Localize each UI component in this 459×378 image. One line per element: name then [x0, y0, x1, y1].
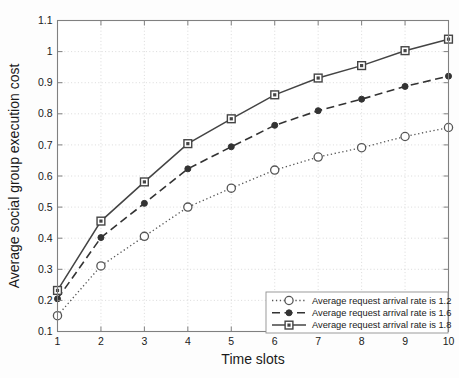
- marker-dot: [315, 108, 321, 114]
- marker-dot: [141, 200, 147, 206]
- y-axis-title: Average social group execution cost: [6, 64, 22, 289]
- marker-square-center: [360, 64, 363, 67]
- marker-square-center: [186, 142, 189, 145]
- legend: Average request arrival rate is 1.2Avera…: [266, 292, 451, 333]
- marker-dot: [98, 235, 104, 241]
- legend-marker-circle: [285, 296, 293, 304]
- marker-circle: [184, 203, 192, 211]
- marker-dot: [359, 96, 365, 102]
- marker-dot: [272, 122, 278, 128]
- x-axis-title: Time slots: [221, 351, 284, 367]
- marker-dot: [185, 166, 191, 172]
- xtick-label: 3: [141, 335, 147, 347]
- marker-square-center: [403, 49, 406, 52]
- ytick-label: 0.8: [38, 107, 53, 119]
- ytick-label: 0.5: [38, 201, 53, 213]
- chart-svg: 0.10.20.30.40.50.60.70.80.911.1123456789…: [0, 0, 459, 378]
- marker-dot: [228, 144, 234, 150]
- legend-marker-square-center: [287, 324, 290, 327]
- marker-square-center: [230, 117, 233, 120]
- ytick-label: 0.9: [38, 76, 53, 88]
- xtick-label: 8: [359, 335, 365, 347]
- marker-circle: [314, 153, 322, 161]
- ytick-label: 0.1: [38, 325, 53, 337]
- marker-square-center: [99, 219, 102, 222]
- marker-circle: [140, 232, 148, 240]
- xtick-label: 2: [98, 335, 104, 347]
- xtick-label: 1: [55, 335, 61, 347]
- legend-label: Average request arrival rate is 1.2: [312, 296, 451, 306]
- ytick-label: 1: [47, 45, 53, 57]
- xtick-label: 4: [185, 335, 191, 347]
- marker-circle: [401, 132, 409, 140]
- legend-marker-dot: [286, 310, 292, 316]
- xtick-label: 5: [228, 335, 234, 347]
- ytick-label: 0.7: [38, 139, 53, 151]
- ytick-label: 0.2: [38, 294, 53, 306]
- legend-label: Average request arrival rate is 1.8: [312, 320, 451, 330]
- marker-dot: [402, 83, 408, 89]
- marker-square-center: [273, 93, 276, 96]
- marker-square-center: [317, 76, 320, 79]
- legend-label: Average request arrival rate is 1.6: [312, 308, 451, 318]
- marker-circle: [227, 184, 235, 192]
- ytick-label: 0.4: [38, 232, 53, 244]
- ytick-label: 0.6: [38, 170, 53, 182]
- marker-square-center: [143, 180, 146, 183]
- marker-circle: [271, 166, 279, 174]
- ytick-label: 1.1: [38, 14, 53, 26]
- xtick-label: 9: [402, 335, 408, 347]
- xtick-label: 10: [443, 335, 455, 347]
- xtick-label: 7: [315, 335, 321, 347]
- marker-circle: [97, 262, 105, 270]
- ytick-label: 0.3: [38, 263, 53, 275]
- marker-circle: [358, 144, 366, 152]
- xtick-label: 6: [272, 335, 278, 347]
- chart-figure: 0.10.20.30.40.50.60.70.80.911.1123456789…: [0, 0, 459, 378]
